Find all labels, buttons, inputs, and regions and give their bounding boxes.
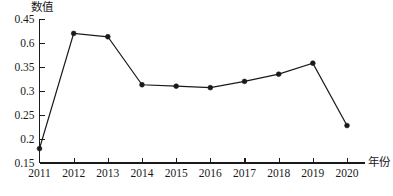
line-chart: 数值 0.450.60.350.30.250.20.15 20112012201… <box>0 0 393 196</box>
y-axis-title: 数值 <box>31 0 54 13</box>
x-tick-label: 2014 <box>131 167 154 179</box>
x-tick-label: 2015 <box>165 167 188 179</box>
x-tick-label: 2017 <box>233 167 256 179</box>
data-point-marker: 2019: 0.358 <box>310 61 315 66</box>
x-tick-label: 2013 <box>96 167 119 179</box>
y-tick-label: 0.3 <box>20 85 35 97</box>
x-tick-label: 2019 <box>301 167 324 179</box>
data-point-markers: 2011: 0.182012: 0.422013: 0.4132014: 0.3… <box>37 31 349 151</box>
x-tick-label: 2012 <box>62 167 85 179</box>
data-point-marker: 2017: 0.32 <box>242 79 247 84</box>
x-tick-label: 2016 <box>199 167 222 179</box>
data-point-marker: 2014: 0.313 <box>140 82 145 87</box>
x-tick-label: 2018 <box>267 167 290 179</box>
y-tick-label: 0.35 <box>14 61 34 73</box>
x-tick-label: 2011 <box>28 167 51 179</box>
y-tick-label: 0.25 <box>14 109 34 121</box>
y-tick-label: 0.6 <box>20 37 35 49</box>
x-axis-title: 年份 <box>368 155 391 168</box>
y-tick-label: 0.45 <box>14 13 34 25</box>
data-point-marker: 2015: 0.31 <box>174 84 179 89</box>
x-axis-ticks: 2011201220132014201520162017201820192020 <box>28 158 359 179</box>
data-point-marker: 2020: 0.228 <box>345 123 350 128</box>
data-point-marker: 2016: 0.307 <box>208 85 213 90</box>
x-tick-label: 2020 <box>336 167 359 179</box>
data-series-line <box>40 33 348 148</box>
data-point-marker: 2018: 0.335 <box>276 72 281 77</box>
data-point-marker: 2013: 0.413 <box>105 34 110 39</box>
data-point-marker: 2011: 0.18 <box>37 146 42 151</box>
chart-plot-area: 数值 0.450.60.350.30.250.20.15 20112012201… <box>0 0 393 196</box>
data-point-marker: 2012: 0.42 <box>71 31 76 36</box>
y-tick-label: 0.2 <box>20 133 35 145</box>
